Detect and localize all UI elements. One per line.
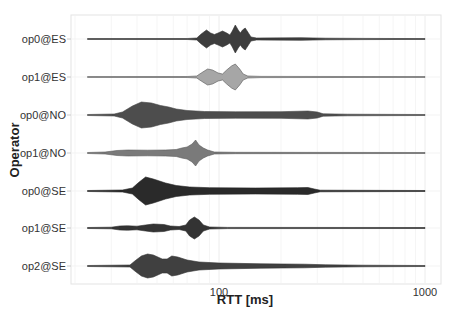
x-axis-title: RTT [ms] [217, 292, 273, 307]
x-tick-label: 1000 [413, 286, 437, 298]
y-axis-title: Operator [7, 123, 22, 178]
y-tick-label: op1@NO [20, 147, 66, 159]
y-tick-label: op1@SE [22, 222, 66, 234]
plot-frame [71, 15, 441, 284]
y-tick-label: op0@ES [22, 33, 66, 45]
y-tick-label: op2@SE [22, 260, 66, 272]
violin-chart: op0@ESop1@ESop0@NOop1@NOop0@SEop1@SEop2@… [0, 0, 453, 312]
y-tick-label: op0@SE [22, 185, 66, 197]
y-tick-label: op0@NO [20, 109, 66, 121]
y-tick-label: op1@ES [22, 71, 66, 83]
y-axis-labels: op0@ESop1@ESop0@NOop1@NOop0@SEop1@SEop2@… [20, 33, 71, 272]
